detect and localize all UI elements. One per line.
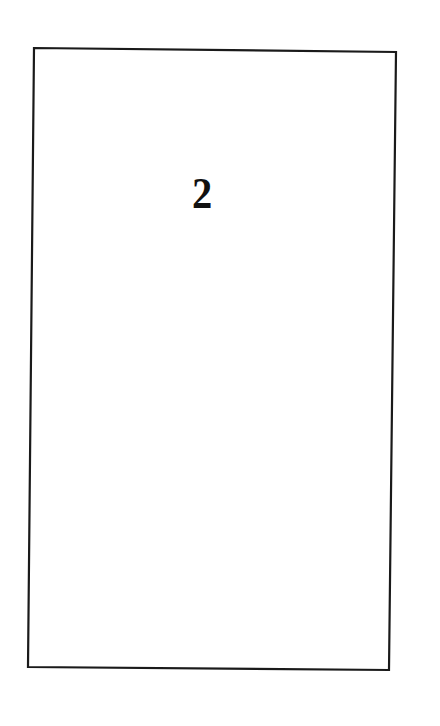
page-frame	[0, 0, 440, 726]
page-number: 2	[192, 172, 212, 216]
